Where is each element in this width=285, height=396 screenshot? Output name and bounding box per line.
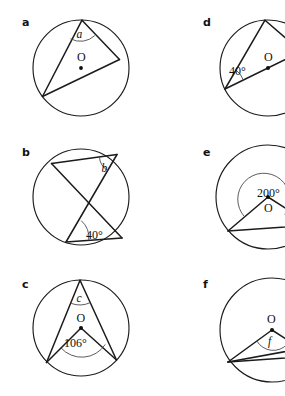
center-label-e: O [264,201,273,215]
center-dot-e [266,195,270,199]
angle-label-a: a [77,28,83,40]
panel-f: f f O [203,278,285,382]
panel-letter-d: d [203,16,211,29]
center-label-d: O [264,50,273,64]
angle-label-b: b [102,162,108,174]
panel-letter-a: a [22,16,29,29]
center-label-c: O [77,311,86,325]
panel-letter-f: f [203,278,208,291]
center-dot-c [79,326,83,330]
circle-outline-f [220,278,285,382]
angle-label-c-given: 106° [64,336,87,350]
center-label-f: O [267,312,276,326]
panel-e: e 200° O [203,145,285,249]
center-dot-d [266,66,270,70]
radius-e-left [228,197,268,231]
circle-theorems-diagram: a a O b b [0,0,285,396]
center-label-a: O [77,50,86,64]
panel-letter-e: e [203,146,210,159]
panel-b: b b 40° [22,146,129,245]
panel-a: a a O [22,16,129,116]
angle-label-c: c [77,292,82,304]
panel-d: d 40° O [203,16,285,116]
angle-label-f: f [268,335,273,348]
geometry-figure: a a O b b [0,0,285,396]
chord-diameter-a [43,60,120,97]
angle-label-b-given: 40° [86,228,103,242]
radius-f-left [228,330,272,362]
center-dot-a [79,66,83,70]
panel-c: c c 106° O [22,278,129,376]
panel-letter-c: c [22,278,29,291]
panel-letter-b: b [22,146,30,159]
chord-e-base [228,225,285,231]
center-dot-f [270,328,274,332]
angle-label-d-given: 40° [229,64,246,78]
